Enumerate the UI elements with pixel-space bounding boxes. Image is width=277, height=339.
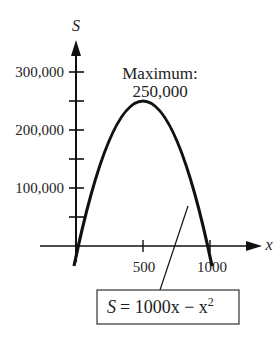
chart: S x 300,000 200,000 100,000 500 1000 Max… (0, 0, 277, 339)
max-annotation-label: Maximum: (122, 64, 198, 83)
y-tick-label-100000: 100,000 (15, 180, 64, 196)
equation-text: S= 1000x − x2 (107, 295, 214, 317)
y-axis-arrow-icon (71, 40, 81, 56)
x-tick-label-500: 500 (133, 259, 156, 275)
y-tick-label-200000: 200,000 (15, 122, 64, 138)
y-tick-label-300000: 300,000 (15, 64, 64, 80)
x-axis-arrow-icon (246, 241, 262, 251)
x-axis-label: x (264, 236, 272, 253)
max-annotation-value: 250,000 (132, 82, 187, 101)
equation-leader-line (160, 206, 188, 290)
y-axis-label: S (72, 17, 80, 34)
